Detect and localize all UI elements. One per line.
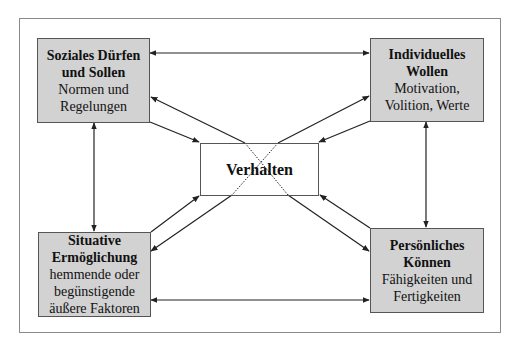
arrow-center-to-bottom-right (288, 195, 369, 251)
node-sub-line: Fertigkeiten (393, 288, 461, 305)
arrow-center-to-top-left (151, 97, 245, 143)
arrow-bottom-left-to-center (151, 196, 199, 232)
node-title-line: Wollen (406, 63, 448, 80)
node-title-line: Verhalten (226, 161, 293, 178)
arrow-center-to-top-right (278, 96, 369, 143)
node-title-line: und Sollen (62, 64, 125, 81)
node-title-line: Situative (68, 232, 121, 249)
node-sub-line: Volition, Werte (385, 97, 470, 114)
node-title-line: Soziales Dürfen (47, 47, 141, 64)
node-sub-line: begünstigende (54, 283, 135, 300)
node-title-line: Können (403, 254, 450, 271)
node-persoenliches-koennen: Persönliches Können Fähigkeiten und Fert… (370, 228, 484, 313)
node-verhalten: Verhalten (200, 143, 319, 196)
node-title-line: Persönliches (390, 237, 465, 254)
node-sub-line: Regelungen (60, 98, 127, 115)
node-title-line: Individuelles (388, 46, 465, 63)
arrow-bottom-right-to-center (320, 195, 370, 228)
node-sub-line: Motivation, (394, 80, 460, 97)
node-sub-line: Normen und (58, 81, 128, 98)
arrow-top-right-to-center (319, 121, 370, 142)
node-title-line: Ermöglichung (52, 249, 138, 266)
node-sub-line: äußere Faktoren (49, 300, 140, 317)
node-sub-line: hemmende oder (50, 266, 140, 283)
node-soziales-duerfen-und-sollen: Soziales Dürfen und Sollen Normen und Re… (37, 38, 150, 123)
node-sub-line: Fähigkeiten und (382, 271, 473, 288)
node-situative-ermoeglichung: Situative Ermöglichung hemmende oder beg… (38, 232, 151, 317)
arrow-top-left-to-center (150, 122, 199, 142)
node-individuelles-wollen: Individuelles Wollen Motivation, Volitio… (370, 38, 484, 122)
